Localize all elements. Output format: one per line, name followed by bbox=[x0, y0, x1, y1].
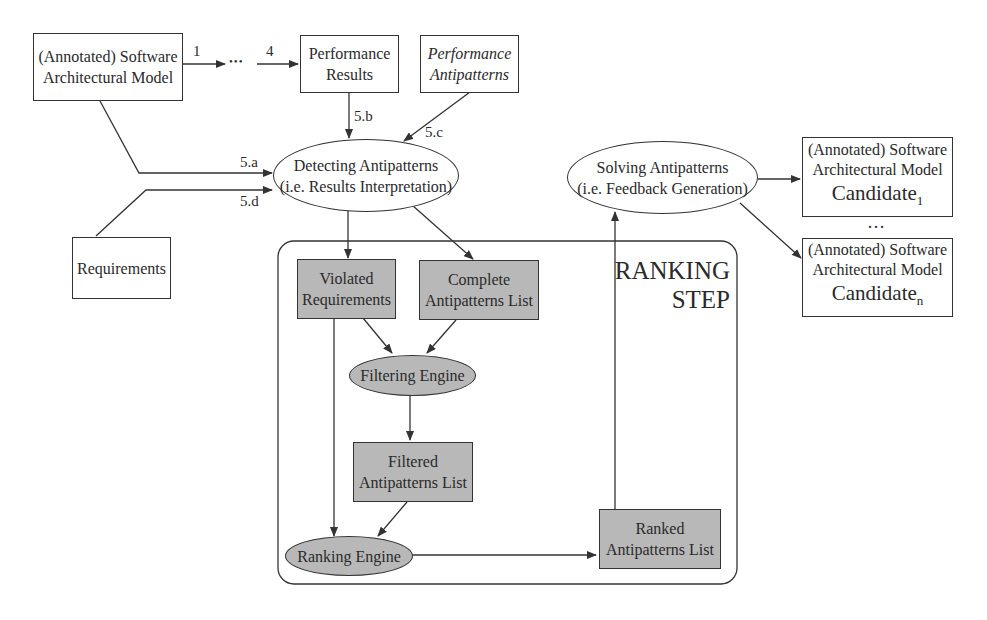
candidaten-name: Candidaten bbox=[832, 280, 924, 314]
candidaten-line2: Architectural Model bbox=[812, 260, 942, 280]
ranking-step-title: RANKING STEP bbox=[600, 256, 730, 314]
candidaten-name-text: Candidate bbox=[832, 281, 917, 305]
model-line1: (Annotated) Software bbox=[38, 46, 177, 67]
complete-line2: Antipatterns List bbox=[425, 290, 533, 311]
edge-label-5b: 5.b bbox=[354, 108, 373, 125]
ranked-line1: Ranked bbox=[636, 518, 685, 539]
edge-filtered-ranking bbox=[378, 502, 407, 536]
ranking-engine-ellipse: Ranking Engine bbox=[285, 536, 413, 576]
solving-line1: Solving Antipatterns bbox=[597, 157, 729, 178]
detecting-line2: (i.e. Results Interpretation) bbox=[280, 176, 452, 197]
edge-detect-complete bbox=[412, 205, 473, 259]
violated-requirements-box: Violated Requirements bbox=[297, 259, 396, 319]
ranked-line2: Antipatterns List bbox=[606, 539, 714, 560]
complete-antipatterns-list-box: Complete Antipatterns List bbox=[419, 260, 539, 320]
edge-complete-filtering bbox=[427, 320, 456, 353]
candidate1-name: Candidate1 bbox=[832, 180, 924, 214]
solving-antipatterns-ellipse: Solving Antipatterns (i.e. Feedback Gene… bbox=[567, 141, 758, 214]
violated-line2: Requirements bbox=[302, 289, 391, 310]
candidaten-subscript: n bbox=[917, 294, 924, 309]
filtered-line1: Filtered bbox=[388, 451, 438, 472]
edge-label-step1: 1 bbox=[193, 43, 201, 60]
edge-label-5a: 5.a bbox=[240, 154, 258, 171]
candidate-1-box: (Annotated) Software Architectural Model… bbox=[802, 137, 953, 217]
model-line2: Architectural Model bbox=[43, 67, 173, 88]
detecting-antipatterns-ellipse: Detecting Antipatterns (i.e. Results Int… bbox=[273, 139, 459, 212]
candidate1-line2: Architectural Model bbox=[812, 160, 942, 180]
ranking-engine-label: Ranking Engine bbox=[297, 546, 401, 567]
candidaten-line1: (Annotated) Software bbox=[808, 240, 947, 260]
perf-results-line2: Results bbox=[326, 64, 373, 85]
ranked-antipatterns-list-box: Ranked Antipatterns List bbox=[599, 509, 721, 569]
perf-antipatterns-line2: Antipatterns bbox=[430, 64, 509, 85]
perf-antipatterns-line1: Performance bbox=[428, 43, 512, 64]
edge-label-step4: 4 bbox=[266, 43, 274, 60]
edge-violated-filtering bbox=[363, 318, 392, 353]
edge-solving-candidaten bbox=[740, 203, 801, 258]
solving-line2: (i.e. Feedback Generation) bbox=[577, 178, 748, 199]
filtering-engine-ellipse: Filtering Engine bbox=[349, 355, 476, 396]
candidate1-name-text: Candidate bbox=[832, 181, 917, 205]
performance-antipatterns-box: Performance Antipatterns bbox=[420, 35, 519, 93]
violated-line1: Violated bbox=[319, 268, 373, 289]
candidate-ellipsis: … bbox=[867, 212, 885, 233]
software-architectural-model-box: (Annotated) Software Architectural Model bbox=[33, 33, 183, 101]
candidate1-line1: (Annotated) Software bbox=[808, 140, 947, 160]
edge-label-5d: 5.d bbox=[240, 193, 259, 210]
ranking-step-line1: RANKING bbox=[600, 256, 730, 285]
edge-label-ellipsis: ••• bbox=[229, 55, 244, 67]
complete-line1: Complete bbox=[448, 269, 510, 290]
perf-results-line1: Performance bbox=[309, 43, 391, 64]
requirements-box: Requirements bbox=[72, 237, 171, 299]
candidate-n-box: (Annotated) Software Architectural Model… bbox=[802, 238, 953, 317]
candidate1-subscript: 1 bbox=[917, 193, 924, 208]
filtered-line2: Antipatterns List bbox=[359, 472, 467, 493]
filtered-antipatterns-list-box: Filtered Antipatterns List bbox=[353, 442, 473, 502]
edge-label-5c: 5.c bbox=[425, 124, 443, 141]
requirements-label: Requirements bbox=[77, 258, 166, 279]
detecting-line1: Detecting Antipatterns bbox=[294, 155, 438, 176]
ranking-step-line2: STEP bbox=[600, 285, 730, 314]
filtering-label: Filtering Engine bbox=[360, 365, 464, 386]
performance-results-box: Performance Results bbox=[300, 35, 399, 93]
